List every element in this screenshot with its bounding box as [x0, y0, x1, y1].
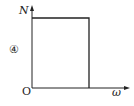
step-graph-diagram: N ④ O ω	[0, 0, 134, 106]
y-axis-arrow-icon	[30, 5, 34, 11]
step-function-curve	[32, 18, 89, 88]
origin-label: O	[22, 86, 31, 97]
x-axis-label: ω	[112, 87, 121, 98]
panel-label: ④	[9, 44, 19, 55]
y-axis-label: N	[19, 5, 29, 16]
x-axis-arrow-icon	[124, 86, 130, 90]
